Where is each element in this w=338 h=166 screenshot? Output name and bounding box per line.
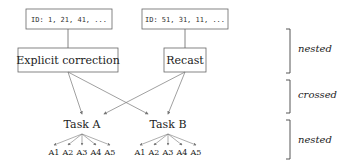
id-box-left-label: ID: 1, 21, 41, ...: [31, 16, 107, 24]
leaf-label: A1: [134, 148, 146, 157]
task-b-label: Task B: [150, 118, 187, 131]
diagram-canvas: ID: 1, 21, 41, ... ID: 51, 31, 11, ... E…: [0, 0, 338, 166]
leaf-label: A3: [76, 148, 88, 157]
task-a-label: Task A: [64, 118, 102, 131]
id-box-right-label: ID: 51, 31, 11, ...: [145, 16, 225, 24]
leaf-label: A5: [190, 148, 202, 157]
leaf-label: A4: [90, 148, 102, 157]
bracket-label-nested-top: nested: [298, 43, 332, 54]
crossed-arrows: [68, 72, 185, 114]
leaf-label: A3: [162, 148, 174, 157]
task-a-branches: [54, 134, 110, 145]
bracket-label-crossed: crossed: [298, 89, 337, 100]
bracket-crossed: [286, 80, 290, 113]
task-b-branches: [140, 134, 196, 145]
bracket-label-nested-bottom: nested: [298, 134, 332, 145]
condition-box-explicit-correction: Explicit correction: [16, 48, 120, 72]
leaf-label: A2: [148, 148, 160, 157]
leaf-label: A4: [176, 148, 188, 157]
condition-label-recast: Recast: [166, 54, 204, 67]
bracket-nested-bottom: [286, 120, 290, 159]
id-box-right: ID: 51, 31, 11, ...: [142, 9, 228, 29]
bracket-nested-top: [286, 29, 290, 73]
id-box-left: ID: 1, 21, 41, ...: [26, 9, 112, 29]
task-a-leaves: A1 A2 A3 A4 A5: [48, 148, 116, 157]
task-b-leaves: A1 A2 A3 A4 A5: [134, 148, 202, 157]
condition-label-explicit-correction: Explicit correction: [16, 54, 120, 67]
brackets: [286, 29, 290, 159]
leaf-label: A2: [62, 148, 74, 157]
condition-box-recast: Recast: [164, 48, 206, 72]
leaf-label: A1: [48, 148, 60, 157]
leaf-label: A5: [104, 148, 116, 157]
